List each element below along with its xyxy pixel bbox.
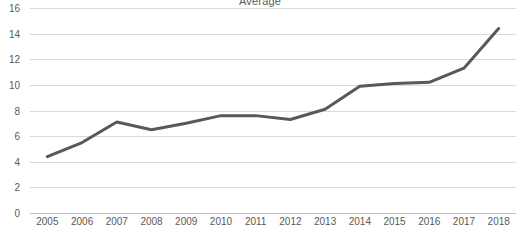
y-axis-tick-label: 8 <box>0 105 20 116</box>
x-axis-tick-label: 2012 <box>273 216 308 236</box>
x-axis: 2005200620072008200920102011201220132014… <box>30 216 516 236</box>
x-axis-tick-label: 2008 <box>134 216 169 236</box>
y-axis-tick-label: 16 <box>0 3 20 14</box>
chart-container: Average 0246810121416 200520062007200820… <box>0 0 520 242</box>
y-axis-tick-label: 0 <box>0 208 20 219</box>
x-axis-tick-label: 2014 <box>342 216 377 236</box>
y-axis-tick-label: 10 <box>0 79 20 90</box>
x-axis-tick-label: 2018 <box>481 216 516 236</box>
x-axis-tick-label: 2013 <box>308 216 343 236</box>
x-axis-tick-label: 2006 <box>65 216 100 236</box>
y-axis-tick-label: 2 <box>0 182 20 193</box>
x-axis-tick-label: 2016 <box>412 216 447 236</box>
x-axis-tick-label: 2005 <box>30 216 65 236</box>
x-axis-tick-label: 2009 <box>169 216 204 236</box>
y-axis-tick-label: 6 <box>0 131 20 142</box>
x-axis-tick-label: 2015 <box>377 216 412 236</box>
chart-title: Average <box>0 0 520 7</box>
y-axis: 0246810121416 <box>30 8 516 213</box>
y-axis-tick-label: 12 <box>0 54 20 65</box>
x-axis-tick-label: 2017 <box>447 216 482 236</box>
x-axis-tick-label: 2011 <box>238 216 273 236</box>
x-axis-line <box>30 213 516 214</box>
y-axis-tick-label: 4 <box>0 156 20 167</box>
x-axis-tick-label: 2007 <box>99 216 134 236</box>
y-axis-tick-label: 14 <box>0 28 20 39</box>
x-axis-tick-label: 2010 <box>204 216 239 236</box>
